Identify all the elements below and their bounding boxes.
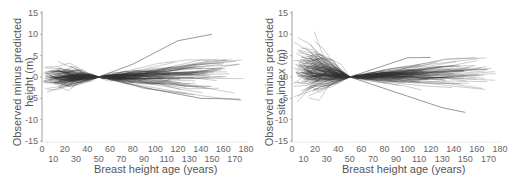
x-tick-label: 100 <box>148 144 163 154</box>
x-tick-label: 170 <box>227 154 242 164</box>
x-tick-label: 30 <box>322 154 332 164</box>
x-tick-label: 120 <box>170 144 185 154</box>
chart-panel-height: 151050-5-10-1502040608010012014016018010… <box>0 0 254 185</box>
trajectory-lines <box>293 32 495 113</box>
x-tick-label: 140 <box>446 144 461 154</box>
x-axis-label: Breast height age (years) <box>342 163 466 175</box>
x-tick-label: 60 <box>105 144 115 154</box>
x-tick-label: 180 <box>492 144 507 154</box>
x-tick-label: 100 <box>400 144 415 154</box>
chart-panel-site-index: 151050-5-10-1502040608010012014016018010… <box>254 0 508 185</box>
plot-area-height: 151050-5-10-1502040608010012014016018010… <box>0 0 254 185</box>
x-tick-label: 80 <box>379 144 389 154</box>
x-axis-label: Breast height age (years) <box>94 163 218 175</box>
x-tick-label: 40 <box>82 144 92 154</box>
x-tick-label: 80 <box>128 144 138 154</box>
x-tick-label: 170 <box>481 154 496 164</box>
x-tick-label: 10 <box>48 154 58 164</box>
x-tick-label: 160 <box>469 144 484 154</box>
y-axis-label: Observed minus predicted site index (m) <box>263 7 287 157</box>
x-tick-label: 0 <box>289 144 294 154</box>
x-tick-label: 20 <box>310 144 320 154</box>
x-tick-label: 40 <box>333 144 343 154</box>
x-tick-label: 10 <box>299 154 309 164</box>
x-tick-label: 60 <box>356 144 366 154</box>
x-tick-label: 30 <box>71 154 81 164</box>
x-tick-label: 160 <box>216 144 231 154</box>
x-tick-label: 0 <box>39 144 44 154</box>
y-axis-label: Observed minus predicted height (m) <box>11 7 35 157</box>
x-tick-label: 180 <box>238 144 253 154</box>
plot-area-site-index: 151050-5-10-1502040608010012014016018010… <box>254 0 509 185</box>
x-tick-label: 140 <box>193 144 208 154</box>
trajectory-lines <box>43 34 243 100</box>
x-tick-label: 20 <box>60 144 70 154</box>
x-tick-label: 120 <box>423 144 438 154</box>
